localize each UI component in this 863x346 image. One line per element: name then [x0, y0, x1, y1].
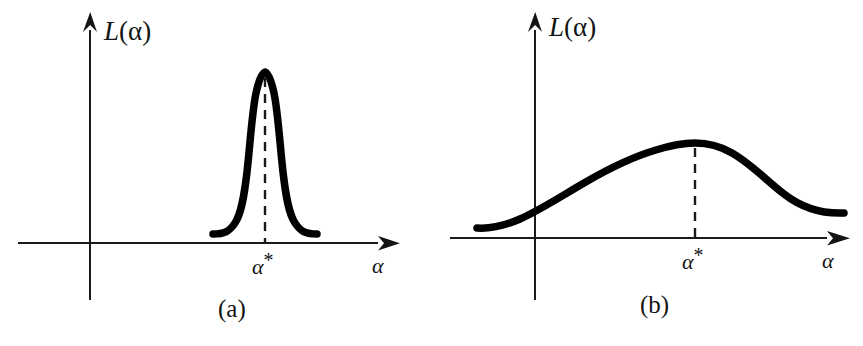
alpha-star-label: α*: [252, 250, 274, 278]
panel-a-caption: (a): [218, 296, 246, 321]
likelihood-curve-broad: [477, 143, 844, 228]
y-axis-label-open-paren: (: [119, 16, 128, 46]
figure-likelihood-comparison: L(α) α* α (a) L(α) α* α (b): [0, 0, 863, 346]
y-axis-label-arg: α: [573, 12, 587, 42]
y-axis-label: L(α): [549, 14, 596, 41]
x-axis-label: α: [372, 255, 384, 277]
x-axis-arrowhead-icon: [378, 236, 400, 251]
panel-b-caption: (b): [640, 292, 669, 317]
alpha-star-label-alpha: α: [682, 249, 694, 274]
alpha-star-label-star: *: [694, 244, 704, 266]
y-axis-label-close-paren: ): [587, 12, 596, 42]
y-axis-label-open-paren: (: [564, 12, 573, 42]
panel-b: L(α) α* α (b): [432, 0, 863, 346]
panel-a-drawing: [0, 0, 432, 346]
x-axis-label: α: [822, 250, 834, 272]
y-axis-label-func: L: [104, 16, 119, 46]
alpha-star-label: α*: [682, 245, 704, 273]
y-axis-arrowhead-icon: [528, 12, 542, 32]
alpha-star-label-star: *: [264, 249, 274, 271]
y-axis-arrowhead-icon: [83, 12, 97, 32]
panel-a: L(α) α* α (a): [0, 0, 432, 346]
y-axis-label-arg: α: [128, 16, 142, 46]
y-axis-label-func: L: [549, 12, 564, 42]
x-axis-arrowhead-icon: [827, 231, 850, 246]
alpha-star-label-alpha: α: [252, 254, 264, 279]
y-axis-label-close-paren: ): [142, 16, 151, 46]
y-axis-label: L(α): [104, 18, 151, 45]
